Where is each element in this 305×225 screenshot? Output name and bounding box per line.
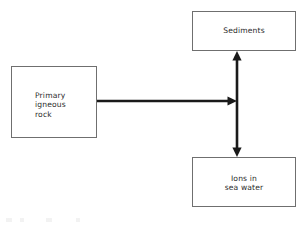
- arrow-sediments-ions: [232, 51, 241, 157]
- node-ions-in-sea-water: Ions in sea water: [192, 157, 296, 207]
- arrow-igneous-to-junction: [97, 97, 237, 106]
- arrowhead-right: [228, 97, 238, 106]
- node-primary-igneous-rock: Primary igneous rock: [11, 66, 97, 138]
- node-label-sediments: Sediments: [193, 26, 295, 35]
- scan-artifact: [6, 218, 126, 222]
- arrowhead-down: [232, 148, 241, 158]
- diagram-canvas: Primary igneous rock Sediments Ions in s…: [0, 0, 305, 225]
- arrowhead-up: [232, 51, 241, 61]
- node-label-primary-igneous-rock: Primary igneous rock: [35, 91, 66, 119]
- node-label-ions-in-sea-water: Ions in sea water: [193, 174, 295, 193]
- node-sediments: Sediments: [192, 11, 296, 51]
